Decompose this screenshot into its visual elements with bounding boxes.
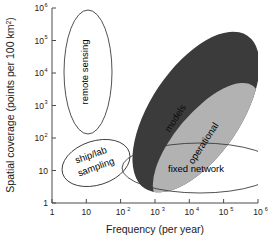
svg-text:5: 5 — [45, 34, 48, 40]
svg-text:6: 6 — [265, 206, 268, 212]
x-tick-label-1e3: 10 3 — [150, 206, 165, 218]
svg-text:4: 4 — [196, 206, 199, 212]
svg-text:5: 5 — [230, 206, 233, 212]
x-tick-label-1e5: 10 5 — [219, 206, 234, 218]
y-tick-label-1e2: 10 2 — [35, 132, 48, 144]
y-axis-title: Spatial coverage (points per 100 km2) — [4, 17, 16, 192]
svg-text:10: 10 — [35, 3, 45, 13]
svg-text:10: 10 — [150, 207, 160, 217]
y-tick-label-1e4: 10 4 — [35, 67, 48, 79]
x-tick-label-1: 1 — [50, 207, 55, 217]
svg-text:2: 2 — [127, 206, 130, 212]
x-tick-label-1e6: 10 6 — [253, 206, 268, 218]
chart-figure: remote sensing ship/lab sampling models … — [0, 0, 271, 249]
svg-text:10: 10 — [35, 133, 45, 143]
y-tick-label-1: 1 — [43, 198, 48, 208]
svg-text:3: 3 — [162, 206, 165, 212]
region-label-remote-sensing: remote sensing — [79, 40, 90, 105]
svg-text:4: 4 — [45, 67, 48, 73]
svg-text:10: 10 — [35, 36, 45, 46]
svg-text:10: 10 — [219, 207, 229, 217]
y-tick-label-1e6: 10 6 — [35, 2, 48, 14]
svg-text:3: 3 — [45, 99, 48, 105]
x-axis-title: Frequency (per year) — [106, 223, 204, 235]
y-axis-title-main: Spatial coverage (points per 100 km — [4, 24, 16, 192]
svg-text:10: 10 — [185, 207, 195, 217]
x-tick-label-1e2: 10 2 — [116, 206, 131, 218]
svg-text:2: 2 — [45, 132, 48, 138]
svg-text:6: 6 — [45, 2, 48, 8]
y-axis-title-tail: ) — [4, 17, 16, 21]
svg-text:10: 10 — [35, 68, 45, 78]
y-tick-label-1e5: 10 5 — [35, 34, 48, 46]
x-tick-label-10: 10 — [82, 207, 92, 217]
region-label-fixed-network: fixed network — [168, 163, 224, 174]
svg-text:Spatial coverage (points per 1: Spatial coverage (points per 100 km2) — [4, 17, 16, 192]
x-axis-tick-labels: 1 10 10 2 10 3 10 4 10 5 — [50, 206, 268, 218]
chart-svg: remote sensing ship/lab sampling models … — [0, 0, 271, 249]
x-tick-label-1e4: 10 4 — [185, 206, 200, 218]
svg-text:10: 10 — [35, 101, 45, 111]
svg-text:10: 10 — [253, 207, 263, 217]
y-tick-label-1e3: 10 3 — [35, 99, 48, 111]
y-axis-tick-labels: 1 10 10 2 10 3 10 4 10 5 — [35, 2, 49, 209]
svg-text:10: 10 — [116, 207, 126, 217]
y-tick-label-10: 10 — [39, 166, 49, 176]
